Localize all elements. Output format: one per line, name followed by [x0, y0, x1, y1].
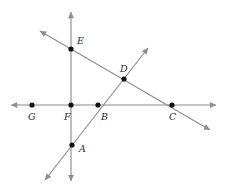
labels-group: A B C D E F G — [28, 35, 177, 154]
point-label-A: A — [78, 143, 86, 154]
point-C — [169, 102, 174, 107]
point-label-B: B — [100, 111, 108, 122]
point-E — [68, 46, 73, 51]
geometry-canvas: A B C D E F G — [0, 0, 228, 193]
point-label-D: D — [119, 63, 128, 74]
point-A — [69, 142, 74, 147]
geometry-figure: A B C D E F G — [0, 0, 228, 193]
ascending-line — [45, 48, 148, 180]
point-B — [95, 102, 100, 107]
lines-group — [11, 12, 216, 181]
point-F — [68, 102, 73, 107]
point-D — [121, 76, 126, 81]
point-label-F: F — [63, 111, 71, 122]
point-label-G: G — [28, 111, 36, 122]
point-label-C: C — [169, 111, 177, 122]
point-G — [29, 102, 34, 107]
point-label-E: E — [76, 35, 84, 46]
